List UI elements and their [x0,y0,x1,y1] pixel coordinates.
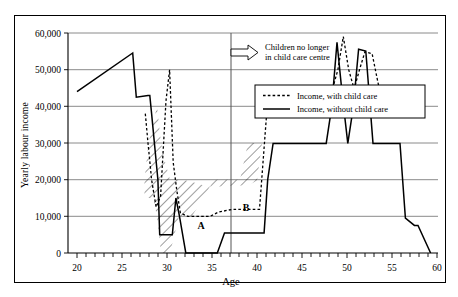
y-tick-50000: 50,000 [35,65,61,75]
x-tick-55: 55 [387,263,397,273]
region-label-B: B [243,202,250,213]
y-axis-tick-labels: 60,000 50,000 40,000 30,000 20,000 10,00… [35,29,61,259]
annotation-line-1: Children no longer [265,42,329,52]
x-axis-tick-labels: 20 25 30 35 40 45 50 55 60 [72,263,442,273]
x-tick-35: 35 [207,263,217,273]
legend-label-without-child-care: Income, without child care [297,104,388,114]
y-tick-60000: 60,000 [35,29,61,39]
y-tick-0: 0 [56,249,61,259]
x-tick-60: 60 [432,263,442,273]
chart-legend: Income, with child care Income, without … [255,85,425,118]
x-axis-label: Age [222,276,240,287]
y-tick-30000: 30,000 [35,139,61,149]
legend-label-with-child-care: Income, with child care [297,91,377,101]
x-tick-45: 45 [297,263,307,273]
x-tick-30: 30 [162,263,172,273]
annotation-line-2: in child care centre [265,52,330,62]
x-tick-20: 20 [72,263,82,273]
y-axis-ticks [64,33,68,253]
x-tick-40: 40 [252,263,262,273]
x-tick-25: 25 [117,263,127,273]
y-tick-40000: 40,000 [35,102,61,112]
x-axis-minor-ticks [77,253,437,258]
region-label-A: A [197,220,205,231]
y-tick-10000: 10,000 [35,212,61,222]
chart-canvas: 60,000 50,000 40,000 30,000 20,000 10,00… [0,0,458,297]
x-tick-50: 50 [342,263,352,273]
y-tick-20000: 20,000 [35,175,61,185]
